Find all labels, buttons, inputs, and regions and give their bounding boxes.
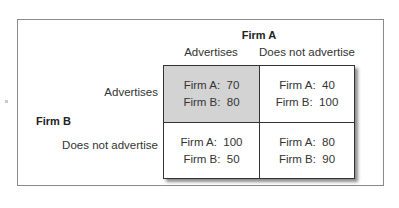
- firm-b-payoff: Firm B: 80: [183, 94, 239, 111]
- payoff-matrix: Firm A: 70 Firm B: 80 Firm A: 40 Firm B:…: [163, 65, 355, 179]
- firm-b-payoff: Firm B: 100: [276, 94, 339, 111]
- firm-b-payoff: Firm B: 50: [183, 151, 239, 168]
- firm-a-payoff: Firm A: 70: [184, 77, 240, 94]
- column-player-title: Firm A: [242, 29, 276, 41]
- stray-mark: [5, 100, 8, 103]
- column-header-does-not-advertise: Does not advertise: [259, 46, 355, 58]
- cell-b-advertises-a-not: Firm A: 40 Firm B: 100: [260, 66, 354, 123]
- cell-a-advertises-b-not: Firm A: 100 Firm B: 50: [164, 123, 260, 178]
- row-player-title: Firm B: [36, 115, 71, 127]
- firm-a-payoff: Firm A: 100: [181, 134, 243, 151]
- firm-a-payoff: Firm A: 40: [279, 77, 335, 94]
- firm-a-payoff: Firm A: 80: [279, 134, 335, 151]
- row-header-advertises: Advertises: [104, 86, 158, 98]
- row-header-does-not-advertise: Does not advertise: [62, 139, 158, 151]
- cell-both-advertise: Firm A: 70 Firm B: 80: [164, 66, 260, 123]
- cell-neither-advertises: Firm A: 80 Firm B: 90: [260, 123, 354, 178]
- firm-b-payoff: Firm B: 90: [279, 151, 335, 168]
- column-header-advertises: Advertises: [184, 46, 238, 58]
